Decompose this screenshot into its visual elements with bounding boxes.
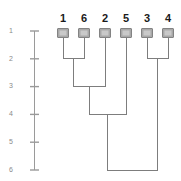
leaf-marker-fill-2 <box>102 31 109 36</box>
leaf-label-4: 4 <box>165 12 172 24</box>
leaf-node-4[interactable]: 4 <box>163 12 174 38</box>
axis-tick-label-1: 1 <box>9 27 13 34</box>
dendrogram-canvas: 1 2 3 4 5 6 1 <box>0 0 181 181</box>
link-merge-3-4 <box>147 38 168 59</box>
leaf-label-1: 1 <box>60 12 66 24</box>
leaf-nodes: 1 6 2 5 <box>58 12 174 38</box>
axis-tick-label-4: 4 <box>9 110 13 117</box>
leaf-node-5[interactable]: 5 <box>121 12 132 38</box>
leaf-label-2: 2 <box>102 12 108 24</box>
leaf-marker-fill-3 <box>144 31 151 36</box>
leaf-node-3[interactable]: 3 <box>142 12 153 38</box>
leaf-node-2[interactable]: 2 <box>100 12 111 38</box>
link-merge-16-2 <box>74 38 106 87</box>
leaf-label-6: 6 <box>81 12 87 24</box>
axis-tick-label-5: 5 <box>9 138 13 145</box>
link-merge-1-6 <box>63 38 84 59</box>
leaf-label-3: 3 <box>144 12 150 24</box>
dendrogram-figure: 1 2 3 4 5 6 1 <box>0 0 181 181</box>
axis-tick-label-6: 6 <box>9 166 13 173</box>
leaf-node-6[interactable]: 6 <box>79 12 90 38</box>
axis-tick-label-2: 2 <box>9 55 13 62</box>
leaf-marker-fill-1 <box>60 31 67 36</box>
leaf-marker-fill-5 <box>123 31 130 36</box>
leaf-node-1[interactable]: 1 <box>58 12 69 38</box>
link-merge-162-5 <box>89 38 126 114</box>
leaf-label-5: 5 <box>123 12 129 24</box>
leaf-marker-fill-6 <box>81 31 88 36</box>
leaf-marker-fill-4 <box>165 31 172 36</box>
axis-tick-label-3: 3 <box>9 82 13 89</box>
height-axis: 1 2 3 4 5 6 <box>9 27 39 173</box>
dendrogram-links <box>63 38 168 170</box>
